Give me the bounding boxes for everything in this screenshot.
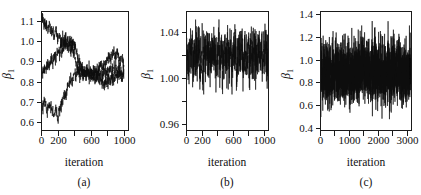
x-tick-label: 3000: [397, 134, 420, 146]
y-tick-label: 1.4: [299, 8, 313, 20]
x-tick-label: 1000: [114, 134, 137, 146]
x-tick-label: 200: [50, 134, 67, 146]
panel-a: 020060010000.60.70.80.91.01.1β1iteration…: [0, 0, 140, 195]
panel-c-plot: 01000200030000.40.60.81.01.21.4β1iterati…: [280, 0, 421, 195]
y-axis-label-subscript: 1: [146, 69, 155, 73]
y-tick-label: 0.7: [20, 96, 34, 108]
y-tick-label: 1.00: [160, 72, 180, 84]
panel-caption: (b): [220, 176, 234, 189]
figure-three-trace-plots: 020060010000.60.70.80.91.01.1β1iteration…: [0, 0, 421, 195]
y-axis-label-text: β1: [280, 69, 295, 80]
x-tick-label: 2000: [368, 134, 391, 146]
y-tick-label: 1.04: [160, 26, 180, 38]
y-tick-label: 0.6: [20, 116, 34, 128]
x-tick-label: 0: [39, 134, 45, 146]
panel-caption: (c): [360, 176, 373, 189]
y-tick-label: 1.1: [20, 15, 34, 27]
x-tick-label: 600: [83, 134, 100, 146]
y-axis-label-subscript: 1: [286, 69, 295, 73]
y-axis-label-text: β1: [0, 69, 16, 80]
y-axis-label-text: β1: [140, 69, 155, 80]
y-tick-label: 1.0: [20, 35, 34, 47]
y-axis-label-subscript: 1: [7, 69, 16, 73]
x-axis-label: iteration: [208, 156, 247, 168]
y-axis-label: β1: [280, 69, 295, 80]
y-axis-label: β1: [0, 69, 16, 80]
x-tick-label: 600: [225, 134, 242, 146]
y-tick-label: 0.9: [20, 55, 34, 67]
x-tick-label: 1000: [254, 134, 277, 146]
y-axis-label: β1: [140, 69, 155, 80]
y-tick-label: 1.0: [299, 54, 313, 66]
y-tick-label: 0.8: [299, 76, 313, 88]
x-tick-label: 1000: [339, 134, 362, 146]
panel-b-plot: 020060010000.961.001.04β1iteration(b): [140, 0, 280, 195]
x-tick-label: 0: [184, 134, 190, 146]
panel-c: 01000200030000.40.60.81.01.21.4β1iterati…: [280, 0, 421, 195]
x-tick-label: 0: [318, 134, 324, 146]
y-tick-label: 1.2: [299, 31, 313, 43]
x-tick-label: 200: [194, 134, 211, 146]
panel-caption: (a): [78, 176, 91, 189]
panel-a-plot: 020060010000.60.70.80.91.01.1β1iteration…: [0, 0, 140, 195]
y-tick-label: 0.6: [299, 99, 313, 111]
y-tick-label: 0.4: [299, 122, 313, 134]
y-tick-label: 0.8: [20, 76, 34, 88]
panel-b: 020060010000.961.001.04β1iteration(b): [140, 0, 280, 195]
x-axis-label: iteration: [65, 156, 104, 168]
x-axis-label: iteration: [347, 156, 386, 168]
y-tick-label: 0.96: [160, 118, 180, 130]
